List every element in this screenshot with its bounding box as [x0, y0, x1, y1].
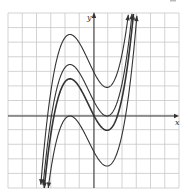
- curve-2: [43, 14, 132, 186]
- curve-3: [44, 14, 133, 188]
- cubic-graph: x y: [0, 0, 188, 193]
- x-axis-label: x: [175, 118, 180, 127]
- curve-4: [48, 16, 137, 188]
- y-axis-label: y: [86, 13, 92, 22]
- axes: x y: [8, 12, 180, 188]
- arrowhead-up-icon: [125, 15, 129, 21]
- scan-artifact: [170, 0, 176, 2]
